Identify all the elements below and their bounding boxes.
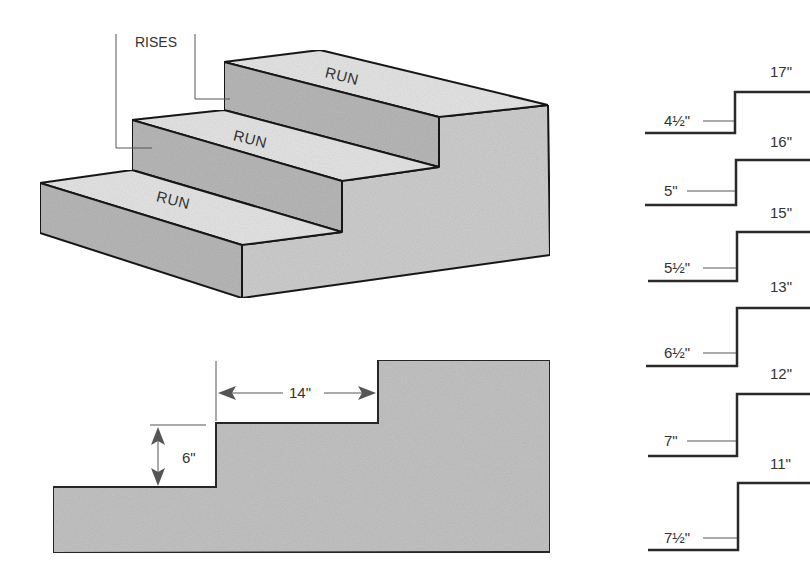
profile-row: 15" 5½": [648, 204, 810, 281]
profile-row: 17" 4½": [645, 63, 810, 133]
rise-dimension-label: 6": [182, 449, 196, 466]
run-value: 16": [770, 133, 792, 150]
rise-value: 6½": [664, 344, 690, 361]
section-profile: 14" 6": [53, 360, 550, 553]
profile-row: 16" 5": [645, 133, 810, 205]
run-value: 15": [770, 204, 792, 221]
run-value: 12": [770, 365, 792, 382]
rise-value: 5": [664, 182, 678, 199]
profile-row: 13" 6½": [646, 278, 810, 366]
run-value: 17": [770, 63, 792, 80]
profile-row: 12" 7": [648, 365, 810, 456]
run-dimension-label: 14": [289, 384, 311, 401]
rises-label: RISES: [135, 34, 177, 50]
rise-value: 7": [664, 432, 678, 449]
rise-value: 7½": [664, 529, 690, 546]
isometric-stair: RUN RUN RUN RISES: [40, 34, 550, 298]
run-value: 13": [770, 278, 792, 295]
profile-row: 11" 7½": [648, 455, 810, 550]
run-value: 11": [770, 455, 791, 472]
rise-value: 5½": [664, 259, 690, 276]
stair-rise-run-diagram: RUN RUN RUN RISES 14" 6": [0, 0, 810, 579]
rise-value: 4½": [664, 112, 690, 129]
rise-run-profiles: 17" 4½" 16" 5" 15" 5½" 13" 6½" 12": [645, 63, 810, 550]
rise-dimension-arrow: [151, 427, 165, 486]
